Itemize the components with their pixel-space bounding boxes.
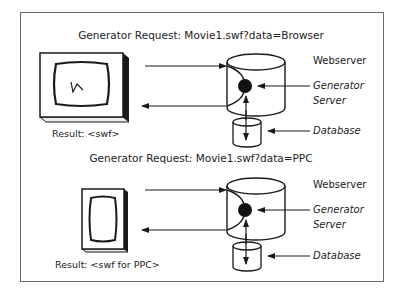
section-ppc: Generator Request: Movie1.swf?data=PPC R… [55, 152, 367, 271]
pocket-pc-icon [82, 189, 128, 252]
server-label: Server [313, 219, 347, 230]
result-label: Result: <swf> [52, 128, 120, 139]
request-title: Generator Request: Movie1.swf?data=PPC [89, 152, 312, 164]
generator-label: Generator [313, 80, 365, 91]
webserver-cylinder-icon [227, 54, 285, 116]
generator-diagram: Generator Request: Movie1.swf?data=Brows… [0, 0, 401, 298]
database-cylinder-icon [233, 242, 261, 271]
section-browser: Generator Request: Movie1.swf?data=Brows… [40, 29, 367, 147]
generator-dot-icon [238, 203, 252, 217]
webserver-label: Webserver [313, 55, 367, 66]
database-cylinder-icon [233, 118, 261, 147]
database-label: Database [313, 125, 361, 136]
server-label: Server [313, 95, 347, 106]
database-label: Database [313, 250, 361, 261]
result-label: Result: <swf for PPC> [55, 259, 160, 270]
webserver-cylinder-icon [227, 178, 285, 240]
desktop-monitor-icon [40, 53, 129, 122]
generator-dot-icon [238, 79, 252, 93]
request-title: Generator Request: Movie1.swf?data=Brows… [78, 29, 324, 41]
webserver-label: Webserver [313, 179, 367, 190]
generator-label: Generator [313, 204, 365, 215]
